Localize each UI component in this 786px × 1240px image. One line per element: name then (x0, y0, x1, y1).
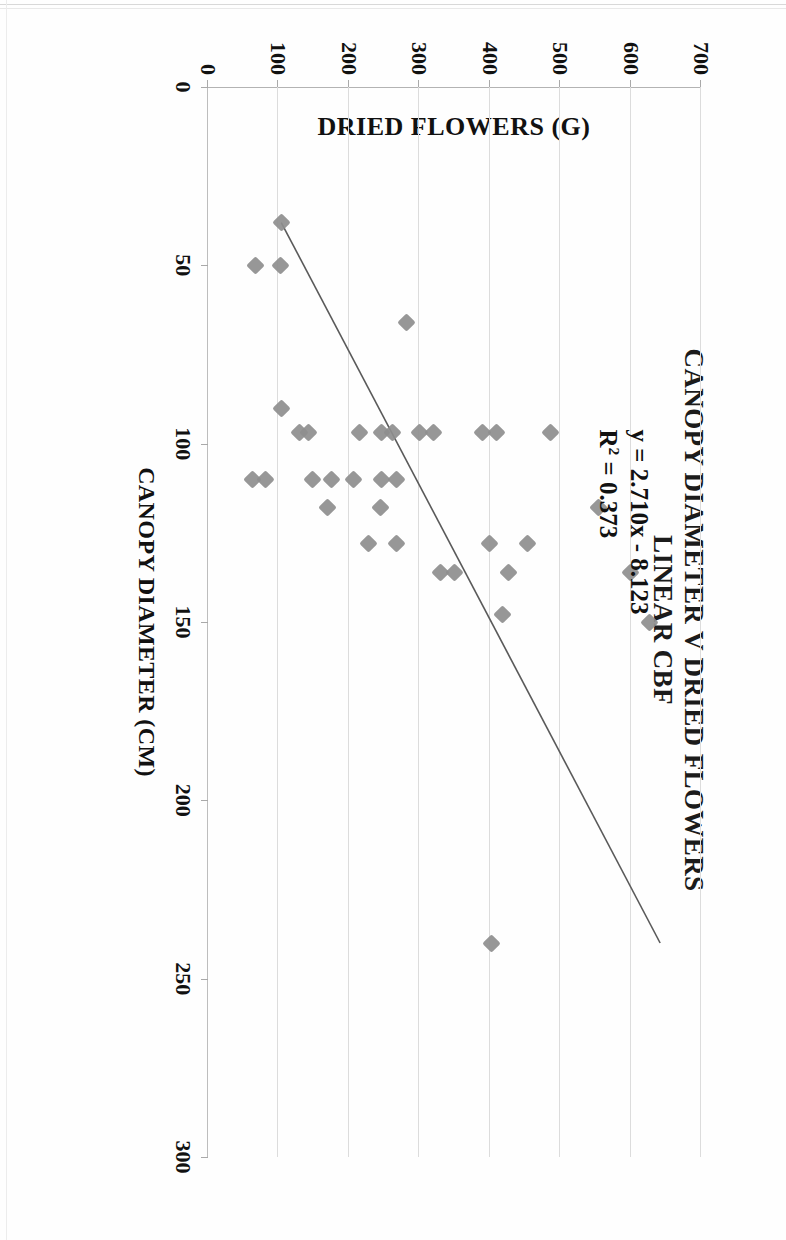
regression-annotation: y = 2.710x - 8.123 R2 = 0.373 (592, 429, 655, 614)
y-tick-0 (207, 80, 208, 87)
x-tick-label-100: 100 (170, 427, 196, 460)
x-tick-0 (201, 87, 208, 88)
r-squared-value: R2 = 0.373 (592, 429, 624, 614)
x-tick-250 (201, 979, 208, 980)
y-tick-label-500: 500 (547, 42, 573, 75)
x-tick-label-200: 200 (170, 784, 196, 817)
y-tick-600 (630, 80, 631, 87)
y-tick-500 (559, 80, 560, 87)
x-tick-label-150: 150 (170, 606, 196, 639)
y-tick-100 (277, 80, 278, 87)
y-tick-300 (418, 80, 419, 87)
r-squared-number: = 0.373 (594, 455, 621, 538)
x-tick-150 (201, 622, 208, 623)
y-tick-label-0: 0 (195, 64, 221, 75)
scan-edge-line (0, 4, 786, 5)
trendline (208, 87, 701, 1157)
y-tick-label-300: 300 (406, 42, 432, 75)
y-tick-label-600: 600 (618, 42, 644, 75)
x-tick-50 (201, 265, 208, 266)
scan-edge-line-secondary (0, 8, 786, 9)
x-tick-label-250: 250 (170, 962, 196, 995)
y-tick-700 (700, 80, 701, 87)
x-axis-title: CANOPY DIAMETER (CM) (133, 467, 160, 777)
x-tick-label-50: 50 (170, 254, 196, 276)
y-tick-label-400: 400 (477, 42, 503, 75)
scan-edge-line-left (6, 0, 7, 1240)
y-tick-400 (489, 80, 490, 87)
y-tick-label-700: 700 (688, 42, 714, 75)
y-tick-200 (348, 80, 349, 87)
y-tick-label-100: 100 (265, 42, 291, 75)
x-tick-label-0: 0 (170, 82, 196, 93)
x-tick-300 (201, 1157, 208, 1158)
x-tick-100 (201, 444, 208, 445)
scanned-page: CANOPY DIAMETER V DRIED FLOWERS LINEAR C… (0, 0, 786, 1240)
x-tick-label-300: 300 (170, 1141, 196, 1174)
plot-area: DRIED FLOWERS (G) CANOPY DIAMETER (CM) 0… (208, 87, 701, 1157)
y-tick-label-200: 200 (336, 42, 362, 75)
scatter-chart: CANOPY DIAMETER V DRIED FLOWERS LINEAR C… (63, 75, 723, 1165)
regression-equation: y = 2.710x - 8.123 (626, 429, 653, 614)
rotated-chart-container: CANOPY DIAMETER V DRIED FLOWERS LINEAR C… (63, 75, 723, 1165)
x-tick-200 (201, 800, 208, 801)
